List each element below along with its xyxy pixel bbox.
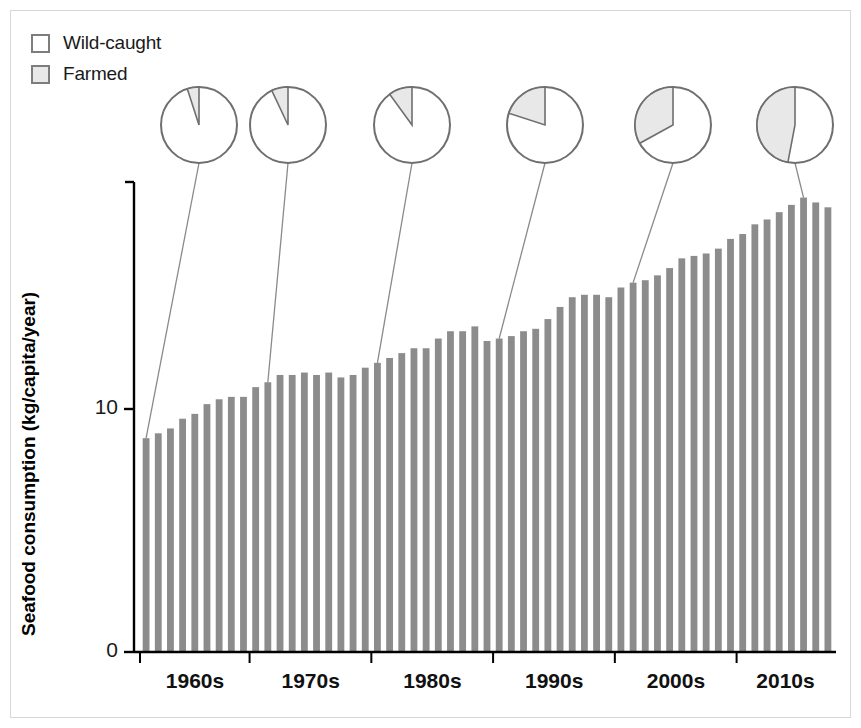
bar (313, 375, 320, 652)
bar (471, 326, 478, 652)
pie-inset (161, 87, 237, 163)
pie-leader-line (268, 163, 288, 382)
x-tick-label: 1970s (281, 669, 339, 693)
bar (289, 375, 296, 652)
bar (277, 375, 284, 652)
bar (447, 331, 454, 652)
bar (654, 275, 661, 652)
pie-inset (635, 87, 711, 163)
bar (630, 283, 637, 652)
pie-leader-line (499, 163, 545, 339)
bar (167, 428, 174, 652)
bar (204, 404, 211, 652)
bar (337, 377, 344, 652)
bar (666, 268, 673, 652)
bar (350, 375, 357, 652)
pie-leader-line (146, 163, 199, 438)
x-tick-label: 1960s (166, 669, 224, 693)
x-tick-label: 2000s (647, 669, 705, 693)
bar (581, 295, 588, 652)
bar (374, 363, 381, 652)
x-tick-label: 1990s (525, 669, 583, 693)
bar (751, 224, 758, 652)
bar (435, 339, 442, 652)
bar (325, 373, 332, 652)
bar (727, 239, 734, 652)
bar (240, 397, 247, 652)
x-tick-label: 2010s (756, 669, 814, 693)
bar (825, 207, 832, 652)
bar (520, 331, 527, 652)
bar (386, 358, 393, 652)
bar (605, 297, 612, 652)
y-tick-label: 10 (95, 395, 118, 419)
bar (678, 258, 685, 652)
bar (264, 382, 271, 652)
bar (691, 256, 698, 652)
bar (776, 212, 783, 652)
bar (143, 438, 150, 652)
chart-figure: Wild-caught Farmed Seafood consumption (… (0, 0, 861, 728)
bar (411, 348, 418, 652)
bar (764, 219, 771, 652)
bar (508, 336, 515, 652)
bar (618, 288, 625, 653)
bar (739, 234, 746, 652)
pie-inset (757, 87, 833, 163)
bar (179, 419, 186, 652)
pie-inset (374, 87, 450, 163)
bar (423, 348, 430, 652)
bar (557, 307, 564, 652)
bar (812, 202, 819, 652)
bar (362, 368, 369, 652)
bar (788, 205, 795, 652)
bar (703, 253, 710, 652)
bar (459, 331, 466, 652)
pie-leader-line (795, 163, 804, 198)
pie-leader-line (377, 163, 412, 363)
plot-area (0, 0, 861, 728)
bar (593, 295, 600, 652)
bar (569, 297, 576, 652)
pie-inset (250, 87, 326, 163)
bar (155, 433, 162, 652)
y-tick-label: 0 (106, 638, 118, 662)
bar (216, 399, 223, 652)
bar (484, 341, 491, 652)
bar (496, 339, 503, 652)
bar (715, 249, 722, 652)
x-tick-label: 1980s (403, 669, 461, 693)
bar (544, 319, 551, 652)
pie-leader-line (633, 163, 673, 283)
bar (800, 198, 807, 652)
pie-inset (507, 87, 583, 163)
bar (532, 329, 539, 652)
bar (642, 280, 649, 652)
bar (398, 353, 405, 652)
bar (191, 414, 198, 652)
bar (228, 397, 235, 652)
bar (301, 373, 308, 652)
pie-slice-farmed (757, 87, 795, 162)
bar (252, 387, 259, 652)
